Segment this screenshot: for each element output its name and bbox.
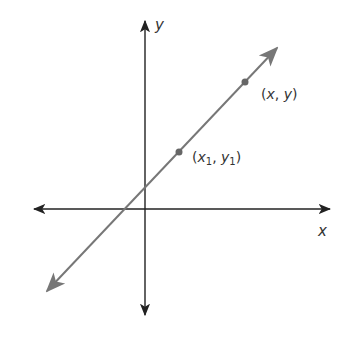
separator: , — [275, 86, 284, 102]
point-label-x-y: (x, y) — [261, 86, 297, 102]
separator: , — [212, 149, 221, 165]
sloped-line — [47, 48, 277, 291]
point-x-y — [242, 79, 249, 86]
coordinate-plane-diagram: y x (x1, y1) (x, y) — [0, 0, 350, 337]
paren-close: ) — [236, 149, 241, 165]
paren-close: ) — [292, 86, 297, 102]
point-x1-y1 — [176, 149, 183, 156]
y-axis-label: y — [154, 16, 165, 34]
point-label-x1-y1: (x1, y1) — [192, 149, 241, 167]
x-axis-label: x — [317, 222, 327, 240]
